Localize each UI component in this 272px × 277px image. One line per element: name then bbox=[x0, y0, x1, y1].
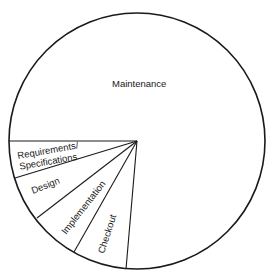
label-maintenance: Maintenance bbox=[112, 78, 166, 89]
pie-chart: Maintenance Requirements/ Specifications… bbox=[0, 0, 272, 277]
